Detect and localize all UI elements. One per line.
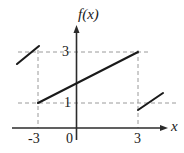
piecewise-function-graph-figure: f(x) x -3 0 3 3 1 [0, 0, 184, 153]
x-tick-label-3: 3 [134, 132, 141, 146]
left-branch-segment [17, 46, 39, 64]
x-axis-arrowhead [160, 125, 168, 131]
right-branch-segment [138, 93, 163, 110]
x-tick-label-zero: 0 [66, 132, 73, 146]
x-tick-label-neg3: -3 [28, 132, 40, 146]
middle-branch-segment [38, 52, 138, 103]
function-label: f(x) [78, 7, 99, 22]
x-axis-label: x [171, 119, 178, 134]
y-axis-arrowhead [74, 25, 80, 33]
y-tick-label-1: 1 [64, 96, 71, 110]
y-tick-label-3: 3 [62, 45, 69, 59]
